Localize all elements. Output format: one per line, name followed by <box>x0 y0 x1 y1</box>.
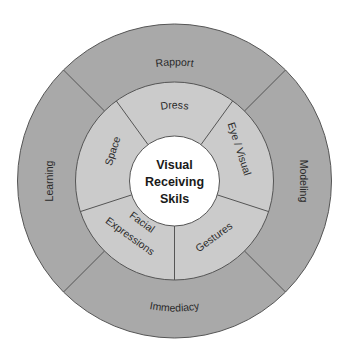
inner-label-dress: Dress <box>160 98 190 111</box>
center-title-line3: Skils <box>160 192 189 206</box>
center-title-line2: Receiving <box>145 175 204 189</box>
center-title-line1: Visual <box>156 158 193 172</box>
outer-label-rapport: Rapport <box>155 55 195 69</box>
outer-label-learning: Learning <box>43 160 55 201</box>
outer-label-modeling: Modeling <box>298 160 310 203</box>
visual-receiving-skills-diagram: Visual Receiving Skils Rapport Immediacy… <box>0 0 349 355</box>
